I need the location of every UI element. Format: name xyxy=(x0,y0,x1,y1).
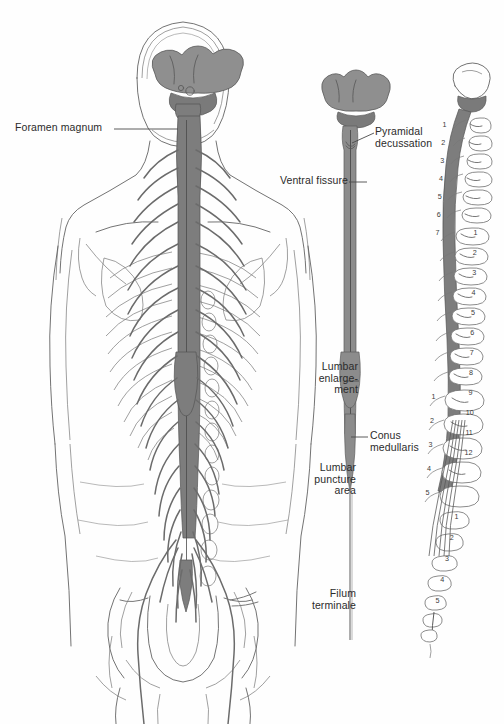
vertebra-number-thoracic-3: 3 xyxy=(469,269,480,277)
vertebra-number-thoracic-9: 9 xyxy=(465,389,476,397)
vertebra-number-thoracic-2: 2 xyxy=(469,249,480,257)
vertebra-number-sacral-2: 2 xyxy=(446,534,457,542)
vertebra-number-thoracic-12: 12 xyxy=(463,449,474,457)
pelvis-outline xyxy=(96,588,270,724)
cerebellum-brainstem xyxy=(152,46,243,118)
label-pyramidal-decussation: Pyramidal decussation xyxy=(375,126,445,149)
vertebra-number-cervical-2: 2 xyxy=(438,139,449,147)
middle-cord-panel xyxy=(322,70,391,640)
vertebra-number-thoracic-11: 11 xyxy=(464,429,475,437)
vertebra-number-thoracic-4: 4 xyxy=(468,289,479,297)
vertebra-number-sacral-5: 5 xyxy=(432,597,443,605)
vertebra-number-thoracic-1: 1 xyxy=(470,229,481,237)
vertebra-number-lumbar-1: 1 xyxy=(428,393,439,401)
cervical-vertebrae-bodies xyxy=(462,118,492,223)
label-lumbar-enlargement: Lumbar enlarge- ment xyxy=(296,361,358,396)
anatomy-figure: .o{fill:none;stroke:#5a5a5a;stroke-width… xyxy=(0,0,504,724)
vertebra-number-sacral-3: 3 xyxy=(442,555,453,563)
vertebra-number-lumbar-3: 3 xyxy=(425,441,436,449)
vertebra-number-cervical-4: 4 xyxy=(436,175,447,183)
vertebra-number-thoracic-10: 10 xyxy=(464,409,475,417)
vertebra-number-thoracic-6: 6 xyxy=(467,329,478,337)
vertebra-number-thoracic-5: 5 xyxy=(467,309,478,317)
label-ventral-fissure: Ventral fissure xyxy=(256,175,348,187)
vertebra-number-sacral-1: 1 xyxy=(451,513,462,521)
vertebra-number-thoracic-7: 7 xyxy=(466,349,477,357)
vertebra-number-thoracic-8: 8 xyxy=(466,369,477,377)
vertebra-number-lumbar-5: 5 xyxy=(422,489,433,497)
vertebra-number-cervical-7: 7 xyxy=(432,229,443,237)
label-lumbar-puncture-area: Lumbar puncture area xyxy=(294,462,356,497)
vertebra-number-lumbar-4: 4 xyxy=(424,465,435,473)
label-filum-terminale: Filum terminale xyxy=(294,588,356,611)
right-vertebral-panel xyxy=(421,63,492,658)
vertebra-number-cervical-3: 3 xyxy=(437,157,448,165)
label-foramen-magnum: Foramen magnum xyxy=(15,122,102,134)
vertebra-number-cervical-1: 1 xyxy=(439,121,450,129)
anatomy-illustration: .o{fill:none;stroke:#5a5a5a;stroke-width… xyxy=(0,0,504,724)
figure-caption xyxy=(0,711,504,723)
vertebra-number-lumbar-2: 2 xyxy=(427,417,438,425)
vertebra-number-cervical-6: 6 xyxy=(433,211,444,219)
vertebra-number-sacral-4: 4 xyxy=(437,576,448,584)
vertebra-number-cervical-5: 5 xyxy=(434,193,445,201)
